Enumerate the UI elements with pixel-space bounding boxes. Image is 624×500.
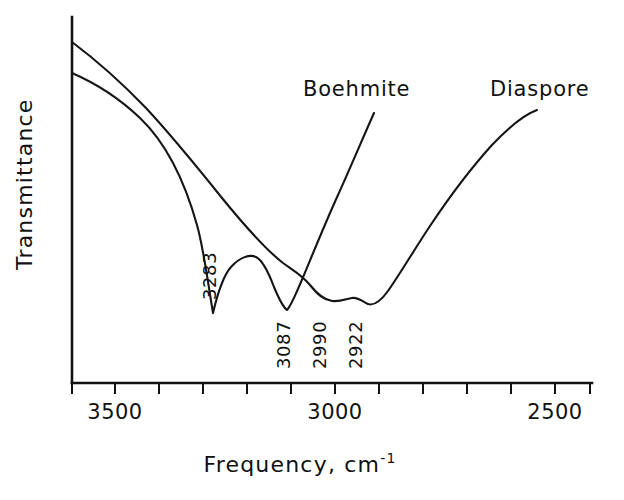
series-label-boehmite: Boehmite <box>303 77 410 101</box>
x-tick-label-2500: 2500 <box>527 400 582 424</box>
x-axis-title-exponent: -1 <box>380 450 396 466</box>
axis-group <box>72 17 592 383</box>
curve-boehmite <box>72 73 374 313</box>
x-axis-title-main: Frequency, cm <box>203 452 380 477</box>
y-axis-title: Transmittance <box>12 98 37 271</box>
x-axis-ticks <box>72 383 590 394</box>
x-tick-label-3000: 3000 <box>307 400 362 424</box>
figure-root: Transmittance 3500 3000 2500 Frequency, … <box>0 0 624 500</box>
spectrum-plot: Transmittance 3500 3000 2500 Frequency, … <box>0 0 624 500</box>
x-tick-label-3500: 3500 <box>87 400 142 424</box>
peak-label-3283: 3283 <box>199 252 220 300</box>
peak-label-3087: 3087 <box>273 321 294 369</box>
peak-label-2922: 2922 <box>345 321 366 369</box>
x-axis-title: Frequency, cm-1 <box>203 450 396 477</box>
peak-label-2990: 2990 <box>309 321 330 369</box>
series-label-diaspore: Diaspore <box>490 77 590 101</box>
